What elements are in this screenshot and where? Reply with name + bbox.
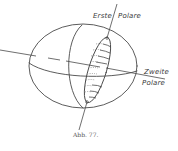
meridian-curve (69, 25, 83, 108)
second-polar-axis (0, 50, 165, 79)
ellipsoid-outline (29, 24, 137, 108)
equator-curve (29, 63, 137, 76)
figure-caption: Abb. 77. (73, 132, 98, 138)
label-erste: Erste (93, 13, 112, 20)
figure-abb-77: Erste Polare Zweite Polare Abb. 77. (0, 0, 178, 151)
label-zweite: Zweite (144, 69, 169, 76)
label-zweite-polare: Polare (142, 80, 165, 87)
hatching (89, 44, 111, 98)
label-erste-polare: Polare (118, 13, 141, 20)
inner-ellipse (79, 35, 116, 105)
